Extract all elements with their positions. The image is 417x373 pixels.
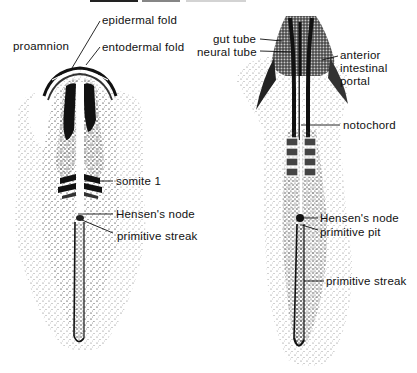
label-hensens-node-right: Hensen's node xyxy=(320,212,399,224)
label-anterior-intestinal-portal: anterior intestinal portal xyxy=(340,49,387,88)
label-proamnion: proamnion xyxy=(13,40,69,52)
label-primitive-pit: primitive pit xyxy=(320,226,381,238)
label-neural-tube: neural tube xyxy=(197,46,257,58)
right-embryo xyxy=(236,16,352,366)
label-epidermal-fold: epidermal fold xyxy=(102,14,177,26)
label-hensens-node-left: Hensen's node xyxy=(116,208,195,220)
label-gut-tube: gut tube xyxy=(213,33,256,45)
label-entodermal-fold: entodermal fold xyxy=(102,41,184,53)
label-somite-1: somite 1 xyxy=(116,175,161,187)
clipped-caption-remnant xyxy=(90,0,260,2)
embryo-figure: epidermal fold proamnion entodermal fold… xyxy=(0,0,417,373)
label-primitive-streak-left: primitive streak xyxy=(117,230,198,242)
label-notochord: notochord xyxy=(343,119,396,131)
label-primitive-streak-right: primitive streak xyxy=(326,275,407,287)
